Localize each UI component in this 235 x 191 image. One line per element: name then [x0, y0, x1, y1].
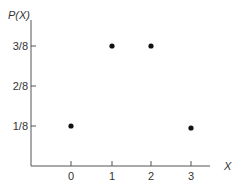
x-ticks: 0 1 2 3 [68, 161, 194, 182]
chart-svg: 3/8 2/8 1/8 0 1 2 3 P(X) X [0, 0, 235, 191]
data-point [68, 123, 73, 128]
data-points [68, 43, 193, 130]
x-tick-label: 3 [188, 170, 194, 182]
x-tick-label: 2 [148, 170, 154, 182]
y-axis-title: P(X) [8, 9, 30, 21]
x-tick-label: 0 [68, 170, 74, 182]
x-tick-label: 1 [109, 170, 115, 182]
y-tick-label: 3/8 [13, 40, 28, 52]
y-tick-label: 1/8 [13, 120, 28, 132]
x-axis-title: X [223, 160, 232, 172]
data-point [148, 43, 153, 48]
probability-distribution-chart: 3/8 2/8 1/8 0 1 2 3 P(X) X [0, 0, 235, 191]
data-point [109, 43, 114, 48]
y-ticks: 3/8 2/8 1/8 [13, 40, 36, 132]
y-tick-label: 2/8 [13, 80, 28, 92]
data-point [188, 125, 193, 130]
